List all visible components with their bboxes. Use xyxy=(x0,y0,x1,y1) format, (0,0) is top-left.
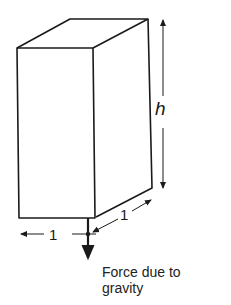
front-face xyxy=(17,48,95,218)
force-caption-line1: Force due to xyxy=(102,264,181,280)
force-caption: Force due to gravity xyxy=(102,264,181,296)
depth-arrow-down xyxy=(93,219,118,232)
depth-label: 1 xyxy=(120,206,128,223)
center-point xyxy=(86,232,90,236)
depth-arrow-up xyxy=(132,200,151,211)
right-face xyxy=(96,19,152,217)
width-label: 1 xyxy=(49,226,57,243)
column-diagram xyxy=(0,0,231,305)
force-caption-line2: gravity xyxy=(102,280,181,296)
height-label: h xyxy=(155,100,166,117)
top-face xyxy=(17,19,148,48)
